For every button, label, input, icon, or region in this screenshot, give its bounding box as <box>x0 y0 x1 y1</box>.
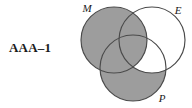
venn-diagram-svg: M E P <box>74 0 192 108</box>
venn-figure-page: AAA–1 <box>0 0 192 108</box>
venn-label-m: M <box>81 2 92 14</box>
venn-label-p: P <box>158 92 166 104</box>
venn-label-e: E <box>174 4 182 16</box>
venn-diagram: M E P <box>74 0 192 108</box>
syllogism-form-label: AAA–1 <box>9 41 51 54</box>
